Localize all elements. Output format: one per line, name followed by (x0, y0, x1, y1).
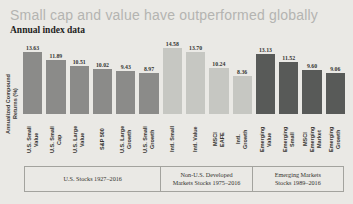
bar-value-label: 11.89 (50, 53, 63, 59)
bar-column: 8.36 (233, 69, 252, 114)
bar-value-label: 10.51 (73, 59, 86, 65)
category-label-cell: U.S. Small Value (23, 116, 42, 163)
category-label-cell: MSCI Emerging Market (302, 116, 321, 163)
bar (209, 68, 228, 114)
chart-subtitle: Annual index data (10, 25, 347, 35)
bar-value-label: 9.43 (121, 64, 131, 70)
bar (163, 48, 182, 114)
bar (326, 73, 345, 114)
bar-column: 9.43 (116, 64, 135, 114)
y-axis: Annualized Compound Returns (%) (4, 38, 21, 192)
bar-column: 9.06 (326, 66, 345, 114)
category-label: U.S. Large Growth (119, 116, 133, 163)
category-label: U.S. Small Cap (49, 116, 63, 163)
group-label-box: Emerging Markets Stocks 1989–2016 (252, 166, 344, 192)
category-label: MSCI EAFE (212, 116, 226, 163)
category-label-cell: U.S. Small Growth (139, 116, 158, 163)
bar-column: 11.89 (46, 53, 65, 114)
bar (70, 66, 89, 114)
bar-column: 10.51 (70, 59, 89, 114)
category-label: U.S. Small Growth (142, 116, 156, 163)
group-boxes-row: U.S. Stocks 1927–2016Non-U.S. Developed … (24, 166, 344, 192)
category-label-cell: Emerging Growth (326, 116, 345, 163)
category-label: Intl. Small (169, 116, 176, 163)
bar-value-label: 9.06 (330, 66, 340, 72)
category-label: Intl. Value (192, 116, 199, 163)
bar-value-label: 13.13 (259, 47, 272, 53)
bar (302, 70, 321, 114)
bar-column: 10.24 (209, 61, 228, 114)
group-label-box: U.S. Stocks 1927–2016 (24, 166, 161, 192)
bar-value-label: 8.36 (237, 69, 247, 75)
bar-column: 9.60 (302, 63, 321, 114)
bar-chart: Annualized Compound Returns (%) 13.6311.… (4, 38, 347, 192)
category-label: U.S. Small Value (26, 116, 40, 163)
bar-value-label: 9.60 (307, 63, 317, 69)
bar (233, 76, 252, 114)
bar (279, 62, 298, 114)
bar-column: 11.52 (279, 55, 298, 114)
bar (256, 54, 275, 114)
bar-column: 13.13 (256, 47, 275, 114)
category-label-cell: Emerging Small (279, 116, 298, 163)
category-label: Emerging Growth (328, 116, 342, 163)
category-label-cell: Intl. Small (163, 116, 182, 163)
bar (139, 73, 158, 114)
category-label: Intl. Growth (235, 116, 249, 163)
chart-title: Small cap and value have outperformed gl… (10, 7, 347, 23)
bar-value-label: 8.97 (144, 66, 154, 72)
category-label-cell: Emerging Value (256, 116, 275, 163)
bar (93, 69, 112, 114)
group-label: U.S. Stocks 1927–2016 (63, 175, 121, 183)
bar-value-label: 13.63 (26, 45, 39, 51)
category-label: U.S. Large Value (72, 116, 86, 163)
chart-page: Small cap and value have outperformed gl… (0, 0, 353, 204)
bar-value-label: 10.24 (212, 61, 225, 67)
bar-value-label: 10.02 (96, 62, 109, 68)
plot-area: 13.6311.8910.5110.029.438.9714.5813.7010… (21, 38, 347, 192)
bar-value-label: 11.52 (282, 55, 295, 61)
bar (186, 52, 205, 114)
category-labels-row: U.S. Small ValueU.S. Small CapU.S. Large… (21, 116, 347, 163)
category-label-cell: MSCI EAFE (209, 116, 228, 163)
category-label: S&P 500 (99, 116, 106, 163)
bar-column: 14.58 (163, 41, 182, 114)
category-label-cell: Intl. Value (186, 116, 205, 163)
bars-row: 13.6311.8910.5110.029.438.9714.5813.7010… (21, 38, 347, 114)
y-axis-label: Annualized Compound Returns (%) (5, 54, 19, 154)
category-label: Emerging Value (259, 116, 273, 163)
bar-value-label: 14.58 (166, 41, 179, 47)
category-label-cell: S&P 500 (93, 116, 112, 163)
group-label-box: Non-U.S. Developed Markets Stocks 1975–2… (160, 166, 252, 192)
bar-column: 13.63 (23, 45, 42, 114)
bar (46, 60, 65, 114)
bar-value-label: 13.70 (189, 45, 202, 51)
bar (116, 71, 135, 114)
category-label: MSCI Emerging Market (302, 116, 321, 163)
category-label: Emerging Small (282, 116, 296, 163)
category-label-cell: U.S. Large Value (70, 116, 89, 163)
bar (23, 52, 42, 114)
category-label-cell: U.S. Large Growth (116, 116, 135, 163)
bar-column: 10.02 (93, 62, 112, 114)
bar-column: 8.97 (139, 66, 158, 114)
category-label-cell: U.S. Small Cap (46, 116, 65, 163)
bar-column: 13.70 (186, 45, 205, 114)
group-label: Emerging Markets Stocks 1989–2016 (275, 171, 321, 187)
category-label-cell: Intl. Growth (233, 116, 252, 163)
group-label: Non-U.S. Developed Markets Stocks 1975–2… (173, 171, 241, 187)
